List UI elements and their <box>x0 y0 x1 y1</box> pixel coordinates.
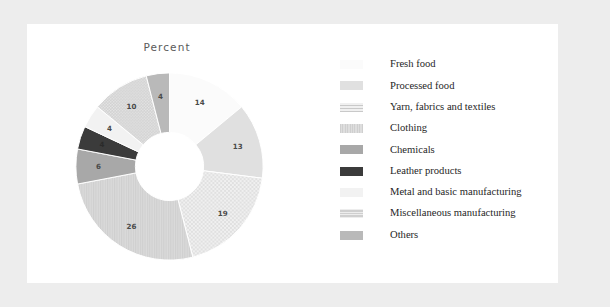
donut-slice[interactable] <box>78 173 193 260</box>
donut-slice-value: 4 <box>107 124 112 133</box>
legend-swatch-chemicals <box>340 145 363 154</box>
legend-item[interactable]: Fresh food <box>340 54 558 75</box>
legend-item[interactable]: Miscellaneous manufacturing <box>340 203 558 224</box>
legend-label: Chemicals <box>390 145 435 156</box>
legend-item[interactable]: Clothing <box>340 118 558 139</box>
legend-item[interactable]: Leather products <box>340 160 558 181</box>
donut-chart: 14131926644104 <box>72 69 267 264</box>
legend-label: Fresh food <box>390 59 436 70</box>
legend-swatch-processed-food <box>340 81 363 90</box>
legend-swatch-clothing <box>340 124 363 133</box>
legend-label: Others <box>390 230 418 241</box>
donut-chart-area: Percent <box>27 24 337 283</box>
donut-slice-value: 14 <box>195 98 205 107</box>
legend-label: Clothing <box>390 123 427 134</box>
legend-swatch-miscellaneous-manufacturing <box>340 209 363 218</box>
legend-swatch-fresh-food <box>340 60 363 69</box>
legend-swatch-leather-products <box>340 167 363 176</box>
legend-label: Processed food <box>390 81 454 92</box>
chart-title: Percent <box>27 41 307 53</box>
donut-slice-value: 19 <box>218 209 228 218</box>
donut-slice-value: 26 <box>127 222 137 231</box>
legend-item[interactable]: Others <box>340 224 558 245</box>
legend-item[interactable]: Processed food <box>340 75 558 96</box>
chart-panel: Percent <box>27 24 558 283</box>
donut-slice-value: 6 <box>96 162 101 171</box>
legend-swatch-metal-and-basic-manufacturing <box>340 188 363 197</box>
donut-slice-value: 4 <box>158 92 163 101</box>
legend-swatch-yarn-fabrics-and-textiles <box>340 103 363 112</box>
legend-label: Leather products <box>390 166 461 177</box>
legend-item[interactable]: Chemicals <box>340 139 558 160</box>
donut-svg: 14131926644104 <box>72 69 267 264</box>
donut-slice-value: 10 <box>127 102 137 111</box>
chart-legend: Fresh food Processed food Yarn, fabrics … <box>340 54 558 246</box>
legend-item[interactable]: Yarn, fabrics and textiles <box>340 97 558 118</box>
legend-item[interactable]: Metal and basic manufacturing <box>340 182 558 203</box>
donut-slice-value: 4 <box>99 140 104 149</box>
donut-slice-value: 13 <box>233 142 243 151</box>
legend-label: Metal and basic manufacturing <box>390 187 522 198</box>
legend-swatch-others <box>340 231 363 240</box>
legend-label: Yarn, fabrics and textiles <box>390 102 495 113</box>
legend-label: Miscellaneous manufacturing <box>390 208 516 219</box>
